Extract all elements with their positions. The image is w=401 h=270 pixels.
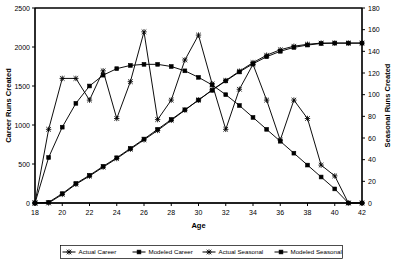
marker-square [156,127,160,131]
legend-label: Modeled Seasonal [291,248,342,255]
x-axis-tick-label: 22 [86,209,94,216]
y-axis-tick-label: 1500 [14,83,30,90]
data-point [223,127,228,132]
data-point [155,117,160,122]
marker-square [60,125,64,129]
marker-square [265,127,269,131]
data-point [318,162,323,167]
data-point [128,64,132,68]
data-point [73,76,78,81]
data-point [142,62,146,66]
data-point [305,116,310,121]
y2-axis-tick-label: 0 [368,200,372,207]
data-point [128,147,132,151]
data-point [183,69,187,73]
x-axis-title: Age [191,221,205,230]
data-point [88,173,92,177]
data-point [101,73,105,77]
marker-square [251,116,255,120]
data-point [74,182,78,186]
x-axis-tick-label: 38 [304,209,312,216]
data-point [210,83,214,87]
x-axis-tick-label: 36 [276,209,284,216]
legend-label: Actual Seasonal [219,248,264,255]
data-point [264,97,269,102]
y-axis-tick-label: 2000 [14,44,30,51]
y2-axis-tick-label: 80 [368,113,376,120]
data-point [251,116,255,120]
data-point [250,62,255,67]
marker-square [74,182,78,186]
data-point [278,139,282,143]
data-point [333,41,337,45]
data-point [87,97,92,102]
y2-axis-tick-label: 120 [368,70,380,77]
data-point [115,156,119,160]
marker-square [183,69,187,73]
marker-square [346,41,350,45]
dual-axis-line-chart: 0500100015002000250002040608010012014016… [0,0,401,270]
data-point [333,187,337,191]
y-axis-tick-label: 0 [26,200,30,207]
chart-container: 0500100015002000250002040608010012014016… [0,0,401,270]
marker-square [278,139,282,143]
marker-square [319,175,323,179]
data-point [332,173,337,178]
data-point [128,79,133,84]
marker-square [60,192,64,196]
data-point [278,49,282,53]
marker-square [210,83,214,87]
x-axis-tick-label: 34 [249,209,257,216]
data-point [197,75,201,79]
marker-square [88,173,92,177]
legend-label: Modeled Career [149,248,193,255]
marker-square [101,164,105,168]
marker-square [237,104,241,108]
data-point [60,76,65,81]
data-point [224,79,228,83]
data-point [100,68,105,73]
legend-marker [279,250,283,254]
data-point [156,127,160,131]
y2-axis-tick-label: 140 [368,48,380,55]
legend-marker [137,250,141,254]
legend-marker [66,249,71,254]
y2-axis-tick-label: 100 [368,91,380,98]
data-point [169,65,173,69]
data-point [319,175,323,179]
marker-square [279,250,283,254]
marker-square [115,67,119,71]
marker-square [306,163,310,167]
marker-square [142,137,146,141]
marker-square [142,62,146,66]
marker-square [197,75,201,79]
marker-square [128,147,132,151]
data-point [169,97,174,102]
data-point [346,41,350,45]
marker-square [292,151,296,155]
marker-square [333,41,337,45]
data-point [265,127,269,131]
data-point [46,127,51,132]
y2-axis-tick-label: 20 [368,178,376,185]
legend-label: Actual Career [79,248,117,255]
data-point [114,116,119,121]
y2-axis-title: Seasonal Runs Created [383,63,392,147]
data-point [169,118,173,122]
marker-square [88,84,92,88]
y2-axis-tick-label: 160 [368,26,380,33]
marker-square [137,250,141,254]
data-point [265,55,269,59]
data-point [306,43,310,47]
x-axis-tick-label: 18 [31,209,39,216]
data-point [74,101,78,105]
data-point [101,164,105,168]
marker-square [292,45,296,49]
data-point [141,29,146,34]
marker-square [278,49,282,53]
y-axis-title: Career Runs Created [4,68,13,143]
marker-square [197,98,201,102]
data-point [237,87,242,92]
marker-square [237,70,241,74]
marker-square [128,64,132,68]
